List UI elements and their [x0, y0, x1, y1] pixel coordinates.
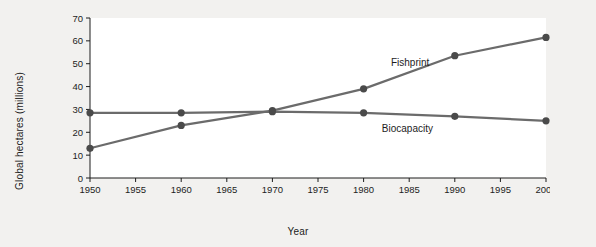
data-point-marker — [360, 109, 367, 116]
x-axis-tick-label: 1975 — [307, 184, 328, 195]
x-axis-tick-label: 1955 — [125, 184, 146, 195]
y-axis-tick-label: 50 — [72, 58, 83, 69]
x-axis-tick-label: 1990 — [444, 184, 465, 195]
data-point-marker — [86, 145, 93, 152]
x-axis-tick-label: 1985 — [399, 184, 420, 195]
series-label-fishprint: Fishprint — [391, 57, 430, 68]
data-point-marker — [542, 34, 549, 41]
y-axis-tick-label: 30 — [72, 104, 83, 115]
y-axis-tick-label: 70 — [72, 13, 83, 24]
data-point-marker — [86, 109, 93, 116]
x-axis-tick-label: 1995 — [490, 184, 511, 195]
x-axis-title: Year — [0, 226, 596, 237]
data-point-marker — [451, 113, 458, 120]
data-point-marker — [360, 85, 367, 92]
data-point-marker — [269, 108, 276, 115]
data-point-marker — [451, 52, 458, 59]
series-label-biocapacity: Biocapacity — [382, 123, 433, 134]
data-point-marker — [178, 109, 185, 116]
data-point-marker — [542, 117, 549, 124]
plot-area: 0102030405060701950195519601965197019751… — [58, 10, 550, 200]
data-point-marker — [178, 122, 185, 129]
x-axis-tick-label: 2000 — [535, 184, 550, 195]
y-axis-tick-label: 40 — [72, 81, 83, 92]
y-axis-tick-label: 0 — [78, 173, 83, 184]
y-axis-tick-label: 10 — [72, 150, 83, 161]
chart-container: 0102030405060701950195519601965197019751… — [0, 0, 596, 247]
y-axis-tick-label: 60 — [72, 35, 83, 46]
y-axis-title: Global hectares (millions) — [14, 72, 25, 190]
y-axis-tick-label: 20 — [72, 127, 83, 138]
plot-background — [90, 18, 546, 178]
line-chart-svg: 0102030405060701950195519601965197019751… — [58, 10, 550, 200]
x-axis-tick-label: 1965 — [216, 184, 237, 195]
x-axis-tick-label: 1960 — [171, 184, 192, 195]
x-axis-tick-label: 1980 — [353, 184, 374, 195]
x-axis-tick-label: 1950 — [79, 184, 100, 195]
x-axis-tick-label: 1970 — [262, 184, 283, 195]
